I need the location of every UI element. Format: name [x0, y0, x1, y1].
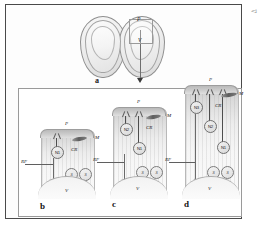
panel-d-soma-n3: N3 [190, 101, 203, 114]
panel-c-label-cr: CR [146, 125, 152, 130]
panel-c-label-p: P [137, 99, 140, 104]
panel-c-label-rf: RF [93, 157, 99, 162]
panel-c-label-v: V [136, 186, 139, 191]
panel-d-n1-stalk [222, 94, 223, 142]
panel-d-label-v: V [208, 186, 211, 191]
panel-d-rf-leader [169, 162, 195, 163]
panel-a-letter: a [95, 76, 99, 85]
panel-b-label-cr: CR [71, 147, 77, 152]
panel-d-soma-n1: N1 [217, 141, 230, 154]
panel-d-letter: d [184, 199, 189, 209]
panel-bcd-frame: N1 CR S S V P M RF b [18, 88, 242, 217]
panel-c-soma-n2: N2 [120, 123, 133, 136]
panel-a: P V a [12, 10, 247, 86]
panel-d: N3 N2 N1 CR S S [185, 86, 237, 198]
panel-d-label-rf: RF [165, 157, 171, 162]
panel-a-down-arrow-icon [137, 78, 143, 83]
panel-c-soma-n1: N1 [133, 142, 146, 155]
panel-d-soma-n2: N2 [204, 120, 217, 133]
panel-c-s-cell-2: S [150, 166, 163, 179]
panel-b-rf-leader [25, 164, 53, 165]
panel-a-label-p: P [137, 16, 140, 22]
figure-outer-frame: P V a N1 CR S S [5, 4, 242, 219]
panel-d-n2-stalk [209, 94, 210, 121]
panel-c-n1-stalk [138, 116, 139, 143]
panel-d-label-m: M [239, 91, 243, 96]
panel-b-label-v: V [65, 188, 68, 193]
panel-b: N1 CR S S V P M RF b [41, 130, 93, 198]
panel-b-letter: b [40, 201, 45, 211]
panel-d-label-cr: CR [215, 103, 221, 108]
panel-a-label-v: V [138, 37, 141, 43]
panel-b-label-rf: RF [21, 159, 27, 164]
figure-root: ◅ P V a N [0, 0, 259, 226]
panel-c-label-m: M [167, 113, 171, 118]
panel-b-label-m: M [95, 135, 99, 140]
panel-d-label-p: P [209, 77, 212, 82]
panel-d-rf-stem [195, 114, 196, 180]
panel-c-rf-leader [97, 162, 124, 163]
panel-c: N2 N1 CR S S V P M RF c [113, 108, 165, 198]
panel-b-label-p: P [65, 121, 68, 126]
panel-c-letter: c [112, 199, 116, 209]
caption-corner-mark: ◅ [249, 7, 257, 15]
